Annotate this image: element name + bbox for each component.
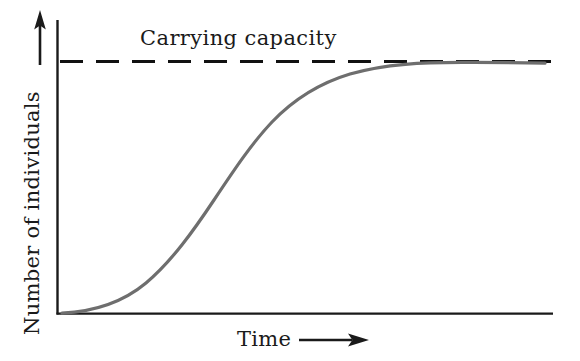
x-axis-label: Time [237,327,291,351]
y-axis-label: Number of individuals [20,91,44,335]
arrow-up-icon [34,10,46,65]
plot-canvas [0,0,580,361]
carrying-capacity-label: Carrying capacity [140,26,337,50]
logistic-growth-figure: Carrying capacity Number of individuals … [0,0,580,361]
logistic-growth-curve [62,62,545,313]
arrow-right-icon [299,333,369,346]
